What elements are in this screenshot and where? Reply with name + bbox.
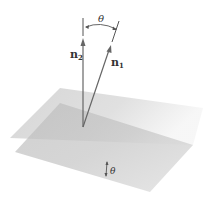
label-n2: n2 xyxy=(70,48,83,62)
label-n1: n1 xyxy=(111,56,124,70)
angle-between-planes-diagram: n2 n1 θ θ xyxy=(0,0,203,202)
label-theta-bottom: θ xyxy=(110,166,116,176)
label-theta-top: θ xyxy=(98,13,104,24)
angle-arc-top xyxy=(85,24,117,30)
